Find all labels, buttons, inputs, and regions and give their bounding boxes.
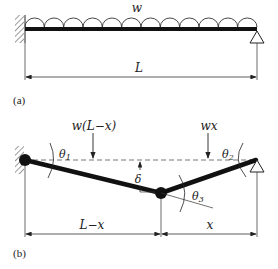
panel-b: w(L−x) wx θ1 θ2 θ3 δ L−x x — [13, 119, 264, 260]
beam-collapse-diagram: w L (a) w(L−x) wx θ1 θ2 — [0, 0, 278, 269]
pin-support-icon — [250, 31, 264, 43]
deflection-label: δ — [135, 173, 142, 186]
theta2-label: θ2 — [222, 148, 234, 162]
plastic-hinge-left-icon — [19, 154, 31, 166]
angle-arc-theta3 — [179, 175, 185, 212]
angle-arc-theta1 — [48, 143, 54, 178]
load-label-right: wx — [200, 119, 217, 133]
panel-b-label: (b) — [13, 247, 26, 260]
left-span-label: L−x — [79, 218, 105, 232]
theta1-label: θ1 — [59, 148, 71, 162]
segment-extension-line — [161, 193, 213, 208]
beam — [25, 27, 257, 31]
span-label-L: L — [134, 61, 143, 75]
distributed-load-icon — [25, 18, 257, 27]
load-label-w: w — [132, 1, 143, 15]
theta3-label: θ3 — [192, 190, 204, 204]
panel-a-label: (a) — [13, 94, 26, 107]
fixed-wall-icon — [15, 15, 24, 43]
beam-segment-right — [161, 160, 256, 193]
diagram-svg: w L (a) w(L−x) wx θ1 θ2 — [0, 0, 278, 269]
panel-a: w L (a) — [13, 1, 264, 107]
load-label-left: w(L−x) — [72, 119, 117, 133]
right-span-label: x — [207, 218, 214, 232]
